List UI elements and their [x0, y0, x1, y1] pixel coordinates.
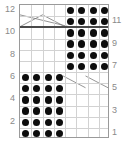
grid-dot[interactable]	[33, 96, 40, 103]
grid-hline	[20, 117, 108, 118]
grid-dot[interactable]	[101, 18, 108, 25]
grid-dot[interactable]	[22, 96, 29, 103]
grid-dot[interactable]	[101, 7, 108, 14]
grid-dot[interactable]	[22, 85, 29, 92]
grid-dot[interactable]	[45, 130, 52, 137]
left-axis-tick-10: 10	[5, 27, 15, 36]
grid-dot[interactable]	[78, 52, 85, 59]
grid-dot[interactable]	[90, 40, 97, 47]
grid-dot[interactable]	[56, 85, 63, 92]
grid-dot[interactable]	[78, 29, 85, 36]
right-axis-tick-9: 9	[112, 39, 117, 48]
grid-dot[interactable]	[67, 18, 74, 25]
grid-dot[interactable]	[67, 29, 74, 36]
grid-dot[interactable]	[101, 29, 108, 36]
grid-dot[interactable]	[56, 74, 63, 81]
grid-dot[interactable]	[33, 74, 40, 81]
right-axis-tick-1: 1	[112, 128, 117, 137]
grid-dot[interactable]	[67, 63, 74, 70]
grid-hline	[20, 61, 108, 62]
plot-area[interactable]	[19, 4, 109, 138]
grid-hline	[20, 50, 108, 51]
left-axis-tick-2: 2	[10, 117, 15, 126]
grid-hline	[20, 94, 108, 95]
grid-hline	[20, 106, 108, 107]
grid-hline	[20, 128, 108, 129]
grid-hline	[20, 72, 108, 73]
grid-dot[interactable]	[45, 96, 52, 103]
left-axis-tick-8: 8	[10, 50, 15, 59]
grid-dot[interactable]	[90, 52, 97, 59]
grid-hline	[20, 39, 108, 40]
grid-dot[interactable]	[33, 85, 40, 92]
grid-dot[interactable]	[90, 29, 97, 36]
left-axis-tick-12: 12	[5, 5, 15, 14]
grid-dot[interactable]	[22, 107, 29, 114]
grid-dot[interactable]	[101, 40, 108, 47]
grid-dot[interactable]	[45, 85, 52, 92]
left-axis: 12108642	[0, 0, 18, 142]
grid-dot[interactable]	[56, 107, 63, 114]
left-axis-tick-6: 6	[10, 72, 15, 81]
grid-dot[interactable]	[78, 18, 85, 25]
diagonal-line-bottom-right	[86, 76, 108, 88]
grid-dot[interactable]	[56, 119, 63, 126]
grid-dot[interactable]	[22, 130, 29, 137]
grid-dot[interactable]	[67, 40, 74, 47]
right-axis-tick-5: 5	[112, 83, 117, 92]
grid-dot[interactable]	[22, 74, 29, 81]
right-axis-tick-3: 3	[112, 106, 117, 115]
grid-dot[interactable]	[45, 119, 52, 126]
grid-dot[interactable]	[22, 119, 29, 126]
grid-dot[interactable]	[67, 52, 74, 59]
grid-dot[interactable]	[45, 107, 52, 114]
grid-hline	[20, 83, 108, 84]
grid-dot[interactable]	[45, 74, 52, 81]
grid-dot[interactable]	[78, 7, 85, 14]
grid-dot[interactable]	[56, 130, 63, 137]
right-axis: 1197531	[110, 0, 128, 142]
left-axis-tick-4: 4	[10, 94, 15, 103]
grid-dot[interactable]	[90, 7, 97, 14]
right-axis-tick-7: 7	[112, 61, 117, 70]
diagonal-line-bottom-right	[63, 76, 85, 88]
grid-dot[interactable]	[90, 18, 97, 25]
grid-dot[interactable]	[56, 96, 63, 103]
row-separator-rule	[20, 26, 108, 28]
grid-dot[interactable]	[78, 63, 85, 70]
grid-hline	[20, 16, 108, 17]
grid-dot[interactable]	[67, 7, 74, 14]
right-axis-tick-11: 11	[112, 16, 121, 25]
grid-dot[interactable]	[33, 107, 40, 114]
grid-dot[interactable]	[33, 119, 40, 126]
grid-dot[interactable]	[101, 63, 108, 70]
figure-root: 12108642 1197531	[0, 0, 128, 142]
grid-dot[interactable]	[90, 63, 97, 70]
grid-dot[interactable]	[78, 40, 85, 47]
grid-dot[interactable]	[33, 130, 40, 137]
grid-dot[interactable]	[101, 52, 108, 59]
